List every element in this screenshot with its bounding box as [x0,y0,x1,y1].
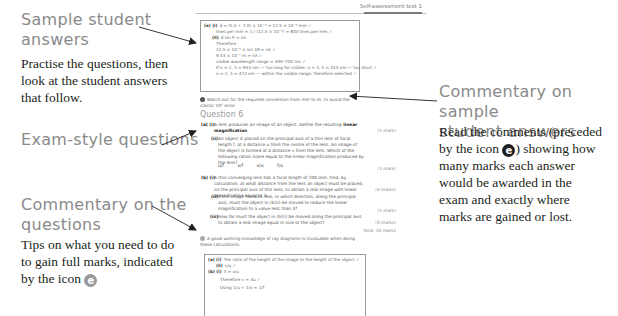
answer-label: (e) (i) [204,23,217,28]
body-line: look at the student answers [21,72,168,89]
page-header: Self-assessment test 1 [196,0,426,16]
question-text: If the image remains real, in which dire… [218,194,356,211]
answer-line: Therefore v = 3u ✓ [208,277,362,283]
question-marks: (3 marks) [375,220,396,225]
commentary-answers-body: Read the comments (preceded by the icon … [439,123,602,225]
sample-answers-body: Practise the questions, then look at the… [21,55,168,106]
body-line: Tips on what you need to do [21,236,174,253]
page-preview: Self-assessment test 1 (e) (i)d = (5.5 +… [196,0,426,316]
answer-label: (ii) [216,263,223,268]
question-marks: (1 mark) [377,208,396,213]
e-icon [200,97,205,102]
answer-label: (ii) [212,35,219,40]
question-marks: (1 mark) [377,128,396,133]
answer-label: (a) (i) [208,257,221,262]
question-item: (a) (i) A lens produces an image of an o… [214,122,364,134]
body-line: Practise the questions, then [21,55,168,72]
fraction-option: v/u [257,163,264,168]
commentary-questions-heading: Commentary on the questions [21,195,187,235]
header-accent-rule [364,12,422,14]
question-commentary: A good working knowledge of ray diagrams… [200,236,360,248]
question-label: (a) (i) [201,122,215,128]
heading-line: Sample student [21,10,151,30]
body-line: to gain full marks, indicated [21,253,174,270]
question-marks: (4 marks) [375,187,396,192]
heading-line: Commentary on the [21,195,187,215]
answer-line: n = 2, λ = 472 nm — within the visible r… [204,71,356,77]
question-label: (ii) [211,194,218,200]
answer-text: v/u ✓ [225,263,236,268]
body-line: by the icon e [21,270,174,287]
body-text: ) showing how [515,141,595,156]
e-icon: e [502,144,515,157]
commentary-text: A good working knowledge of ray diagrams… [200,236,355,247]
body-line: marks are gained or lost. [439,208,602,225]
question-item: (ii) If the image remains real, in which… [218,194,364,212]
answer-label: (b) (i) [208,269,222,274]
question-text: An object is placed on the principal axi… [218,136,364,165]
e-icon: e [84,274,97,287]
answer-text: The ratio of the height of the image to … [223,257,359,262]
answer-line: (b) (i)3 = v/u [208,269,362,275]
answer-text: visible wavelength range = 400–700 nm ✓ [216,59,306,64]
fraction-option: u/f [218,163,224,168]
heading-line: questions [21,215,187,235]
body-text: by the icon [439,141,499,156]
answer-text: Therefore [216,41,236,46]
answer-text: Therefore v = 3u ✓ [220,277,260,282]
body-line: many marks each answer [439,157,602,174]
fraction-options: u/f v/f v/u f/u [218,163,295,168]
sample-answer-box: (a) (i)The ratio of the height of the im… [204,254,366,316]
question-label: (b) (i) [201,175,215,181]
total-marks: Total: 10 marks [363,228,396,233]
question-label: (ii) [211,136,218,142]
heading-line: answers [21,30,151,50]
answer-text: n = 2, λ = 472 nm — within the visible r… [216,71,357,76]
body-line: exam and exactly where [439,191,602,208]
answer-text: 9.43 × 10⁻⁷ m = nλ ✓ [216,53,262,58]
commentary-questions-body: Tips on what you need to do to gain full… [21,236,174,287]
body-line: would be awarded in the [439,174,602,191]
heading-line: Commentary on sample [439,82,618,122]
fraction-option: f/u [277,163,283,168]
fraction-option: v/f [237,163,243,168]
exam-questions-heading: Exam-style questions [21,130,199,150]
question-text: How far must the object in (b)(i) be mov… [218,214,362,225]
answer-line: Using 1/u + 1/v = 1/f [208,285,362,291]
answer-commentary: Watch out for the required conversion fr… [200,97,352,109]
answer-text: d = (5.5 + 7.0) × 10⁻³ = 12.5 × 10⁻³ mm … [219,23,311,28]
answer-text: If n = 1, λ = 943 nm — too long for visi… [216,65,377,70]
answer-text: Using 1/u + 1/v = 1/f [220,285,264,290]
question-text: . [247,128,248,133]
answer-text: 12.5 × 10⁻³ × sin 49 = nλ ✓ [216,47,276,52]
question-item: (ii) An object is placed on the principa… [218,136,364,166]
body-line: that follow. [21,89,168,106]
question-item: (iii) How far must the object in (b)(i) … [218,214,364,226]
answer-text: 3 = v/u [224,269,239,274]
e-icon [200,236,205,241]
question-label: (iii) [210,214,218,220]
body-line: Read the comments (preceded [439,123,602,140]
body-text: by the icon [21,271,81,286]
answer-text: lines per mm = 1 / (12.5 × 10⁻³) = 800 l… [216,29,332,34]
sample-answers-heading: Sample student answers [21,10,151,50]
page-header-title: Self-assessment test 1 [360,3,422,9]
commentary-text: Watch out for the required conversion fr… [200,97,350,108]
question-text: A lens produces an image of an object. D… [214,122,343,127]
body-line: by the icon e) showing how [439,140,602,157]
answer-text: d sin θ = nλ [221,35,246,40]
question-title: Question 6 [200,110,243,119]
question-marks: (1 mark) [377,166,396,171]
sample-answer-box: (e) (i)d = (5.5 + 7.0) × 10⁻³ = 12.5 × 1… [200,20,360,92]
